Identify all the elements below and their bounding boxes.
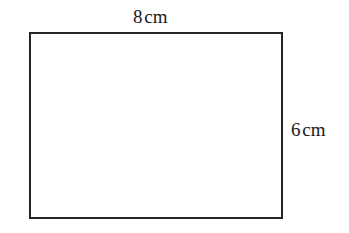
dimension-unit-right: cm	[302, 119, 326, 140]
rectangle-shape	[30, 33, 282, 218]
dimension-label-top: 8cm	[133, 7, 168, 26]
dimension-label-right: 6cm	[291, 120, 326, 139]
figure-canvas: 8cm 6cm	[0, 0, 349, 233]
rectangle-diagram-svg	[0, 0, 349, 233]
dimension-value-right: 6	[291, 119, 301, 140]
dimension-unit-top: cm	[144, 6, 168, 27]
dimension-value-top: 8	[133, 6, 143, 27]
